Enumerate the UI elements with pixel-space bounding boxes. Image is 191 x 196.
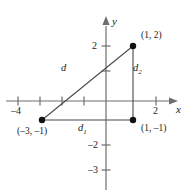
segment-d [42, 46, 133, 120]
x-tick-label-neg4: –4 [11, 106, 21, 116]
y-axis [102, 16, 111, 190]
y-tick-label-neg3: –3 [88, 165, 98, 175]
y-axis-label: y [112, 16, 117, 27]
distance-label-d: d [61, 63, 66, 74]
point-label-1-2: (1, 2) [141, 31, 162, 41]
x-tick-label-2: 2 [153, 106, 158, 116]
distance-label-d2: d2 [133, 63, 142, 76]
distance-label-d1: d1 [78, 123, 87, 136]
y-tick-label-2: 2 [92, 41, 97, 51]
point-1-neg1 [130, 117, 136, 123]
coordinate-plane-figure: x y –4 2 2 –2 –3 (1, 2) (–3, –1) (1, –1)… [0, 0, 191, 196]
y-tick-label-neg2: –2 [88, 140, 98, 150]
distance-label-d2-sub: 2 [138, 68, 142, 76]
x-axis-label: x [176, 104, 181, 115]
distance-label-d1-sub: 1 [83, 128, 87, 136]
point-label-neg3-neg1: (–3, –1) [17, 127, 47, 137]
triangle-segments [42, 46, 133, 120]
point-neg3-neg1 [39, 117, 45, 123]
point-label-1-neg1: (1, –1) [141, 124, 166, 134]
point-1-2 [130, 43, 136, 49]
